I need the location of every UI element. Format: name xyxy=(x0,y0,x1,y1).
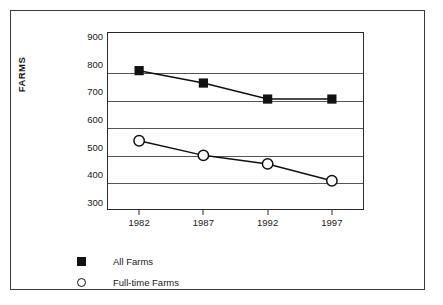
legend-item-all-farms: All Farms xyxy=(67,251,327,272)
plot-area xyxy=(107,32,364,210)
y-axis-tick-label: 500 xyxy=(69,141,103,152)
gridline xyxy=(108,101,363,102)
open-circle-icon xyxy=(67,278,95,287)
x-axis-tick-mark xyxy=(139,210,140,215)
y-axis-tick-label: 700 xyxy=(69,86,103,97)
x-axis-tick-label: 1997 xyxy=(302,217,362,228)
y-axis-tick-label: 900 xyxy=(69,31,103,42)
legend-label-full-time-farms: Full-time Farms xyxy=(113,277,179,288)
x-axis-tick-mark xyxy=(331,210,332,215)
gridline xyxy=(108,73,363,74)
y-axis-tick-label: 800 xyxy=(69,58,103,69)
x-axis-tick-mark xyxy=(203,210,204,215)
filled-square-icon xyxy=(67,257,95,266)
x-axis-tick-label: 1982 xyxy=(109,217,169,228)
y-axis-tick-label: 300 xyxy=(69,196,103,207)
chart-legend: All Farms Full-time Farms xyxy=(67,251,327,293)
y-axis-tick-labels: 900800700600500400300 xyxy=(63,32,103,210)
x-axis-tick-mark xyxy=(267,210,268,215)
gridline xyxy=(108,156,363,157)
x-axis-tick-label: 1987 xyxy=(173,217,233,228)
x-axis-tick-label: 1992 xyxy=(238,217,298,228)
gridline xyxy=(108,183,363,184)
y-axis-tick-label: 600 xyxy=(69,113,103,124)
legend-item-full-time-farms: Full-time Farms xyxy=(67,272,327,293)
chart-figure-frame: FARMS 900800700600500400300 198219871992… xyxy=(10,10,425,290)
x-axis-tick-labels: 1982198719921997 xyxy=(107,217,364,233)
x-axis-tick-marks xyxy=(107,210,364,216)
gridline xyxy=(108,128,363,129)
y-axis-title: FARMS xyxy=(16,35,27,115)
legend-label-all-farms: All Farms xyxy=(113,256,153,267)
y-axis-tick-label: 400 xyxy=(69,169,103,180)
